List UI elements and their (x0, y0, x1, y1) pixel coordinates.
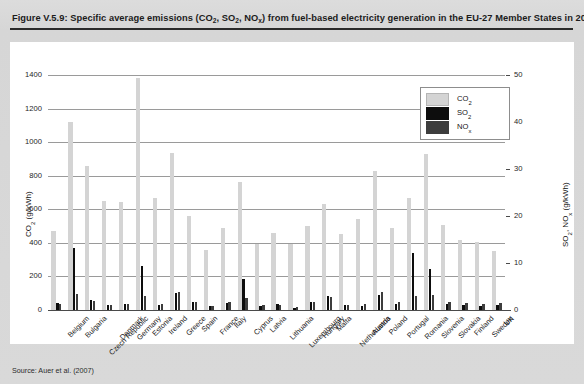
legend-label-so2: SO2 (457, 108, 471, 119)
chart-panel: CO2 (g/kWh) SO2, NOx (g/kWh) 02004006008… (10, 42, 574, 344)
bar-group (353, 75, 370, 310)
y-axis-left-tick-label: 1000 (14, 137, 42, 146)
legend-item-so2: SO2 (426, 107, 504, 120)
bar-nox (161, 304, 163, 310)
bar-co2 (136, 78, 140, 310)
y-axis-right-tick-label: 50 (514, 70, 522, 79)
bar-group (200, 75, 217, 310)
y-axis-right-title: SO2, NOx (g/kWh) (561, 182, 572, 247)
bar-co2 (255, 244, 259, 310)
bar-nox (178, 292, 180, 310)
bar-group (82, 75, 99, 310)
y-axis-right-tick-label: 0 (514, 305, 518, 314)
y-axis-left-tick-label: 600 (14, 204, 42, 213)
bar-co2 (153, 198, 157, 310)
bar-nox (415, 296, 417, 310)
y-axis-left-tick-label: 0 (14, 305, 42, 314)
y-axis-right-tickmark (506, 75, 510, 76)
bar-group (336, 75, 353, 310)
bar-group (133, 75, 150, 310)
bar-nox (93, 301, 95, 310)
bar-group (234, 75, 251, 310)
bar-co2 (170, 153, 174, 310)
y-axis-right-tick-label: 20 (514, 211, 522, 220)
bar-group (99, 75, 116, 310)
bar-co2 (322, 204, 326, 310)
bar-co2 (492, 251, 496, 310)
bar-nox (313, 302, 315, 310)
bar-group (150, 75, 167, 310)
bar-group (183, 75, 200, 310)
bar-nox (110, 305, 112, 310)
bar-group (65, 75, 82, 310)
bar-nox (347, 305, 349, 310)
bar-group (319, 75, 336, 310)
bar-group (251, 75, 268, 310)
bar-co2 (119, 202, 123, 310)
bar-co2 (238, 182, 242, 310)
bar-co2 (102, 201, 106, 310)
bar-nox (448, 302, 450, 310)
figure-title-block: Figure V.5.9: Specific average emissions… (10, 13, 574, 30)
bar-nox (144, 296, 146, 310)
bar-co2 (204, 250, 208, 310)
bar-nox (465, 303, 467, 310)
bar-co2 (373, 171, 377, 310)
legend-swatch-nox (426, 121, 449, 134)
legend-label-co2: CO2 (457, 94, 472, 105)
bar-nox (482, 304, 484, 310)
bar-nox (262, 305, 264, 310)
title-divider (10, 28, 573, 30)
bar-nox (59, 304, 61, 310)
bar-co2 (51, 231, 55, 310)
bar-co2 (458, 240, 462, 310)
legend-item-co2: CO2 (426, 93, 504, 106)
y-axis-right-tickmark (506, 263, 510, 264)
y-axis-right-tick-label: 40 (514, 117, 522, 126)
bar-nox (364, 304, 366, 310)
bar-co2 (288, 244, 292, 310)
legend-swatch-co2 (426, 93, 449, 106)
bar-co2 (305, 226, 309, 310)
y-axis-left-tick-label: 200 (14, 271, 42, 280)
y-axis-right-tick-label: 10 (514, 258, 522, 267)
bar-co2 (407, 198, 411, 310)
bar-group (285, 75, 302, 310)
bar-group (370, 75, 387, 310)
figure-page: Figure V.5.9: Specific average emissions… (0, 0, 584, 384)
bar-nox (381, 292, 383, 310)
bar-nox (211, 306, 213, 310)
y-axis-left-tick-label: 1200 (14, 104, 42, 113)
bar-co2 (85, 166, 89, 310)
bar-nox (296, 307, 298, 310)
bar-nox (127, 304, 129, 310)
y-axis-left-tick-label: 800 (14, 171, 42, 180)
bar-co2 (475, 242, 479, 310)
y-axis-left-tick-label: 400 (14, 238, 42, 247)
figure-title: Figure V.5.9: Specific average emissions… (10, 13, 574, 23)
y-axis-right-tickmark (506, 216, 510, 217)
bar-co2 (271, 233, 275, 310)
x-axis-line (48, 310, 511, 311)
y-axis-right-tickmark (506, 169, 510, 170)
bar-group (116, 75, 133, 310)
bar-nox (279, 305, 281, 310)
bar-nox (432, 295, 434, 311)
bar-nox (195, 302, 197, 310)
bar-group (403, 75, 420, 310)
bar-co2 (339, 234, 343, 310)
bar-co2 (68, 122, 72, 310)
bar-nox (228, 302, 230, 310)
bar-nox (499, 303, 501, 310)
bar-co2 (356, 219, 360, 310)
bar-group (268, 75, 285, 310)
legend-label-nox: NOx (457, 122, 471, 133)
y-axis-left-title: CO2 (g/kWh) (24, 191, 35, 237)
bar-group (302, 75, 319, 310)
bar-group (217, 75, 234, 310)
bar-nox (245, 298, 247, 310)
bar-co2 (390, 228, 394, 310)
bar-co2 (221, 228, 225, 310)
bar-group (166, 75, 183, 310)
bar-nox (398, 302, 400, 310)
